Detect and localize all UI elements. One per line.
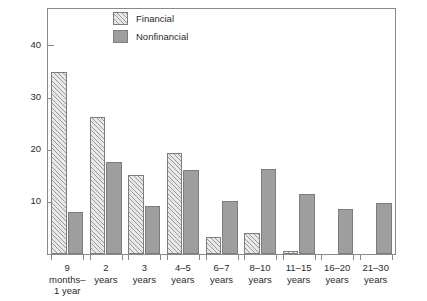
- x-tick-6-1: [315, 255, 316, 260]
- legend-item-financial: Financial: [113, 11, 188, 25]
- y-tick-label-40: 40: [15, 39, 41, 50]
- bar-financial-2: [128, 175, 144, 254]
- x-tick-1-0: [90, 255, 91, 260]
- y-tick-label-30: 30: [15, 91, 41, 102]
- bar-financial-4: [206, 237, 222, 254]
- bar-nonfinancial-4: [222, 201, 238, 254]
- bar-financial-6: [283, 251, 299, 254]
- x-tick-7-1: [353, 255, 354, 260]
- x-tick-7-0: [321, 255, 322, 260]
- x-tick-2-1: [160, 255, 161, 260]
- bar-nonfinancial-5: [261, 169, 277, 254]
- legend-label-nonfinancial: Nonfinancial: [136, 31, 188, 42]
- x-tick-3-0: [167, 255, 168, 260]
- bar-financial-1: [90, 117, 106, 254]
- x-tick-0-1: [83, 255, 84, 260]
- x-tick-5-1: [276, 255, 277, 260]
- legend-item-nonfinancial: Nonfinancial: [113, 29, 188, 43]
- bar-chart-figure: Percent of total 10203040 9 months– 1 ye…: [0, 0, 427, 301]
- x-tick-8-1: [392, 255, 393, 260]
- x-tick-3-1: [199, 255, 200, 260]
- x-group-label-8: 21–30 years: [350, 262, 402, 285]
- bar-financial-5: [244, 233, 260, 254]
- x-tick-8-0: [360, 255, 361, 260]
- legend-label-financial: Financial: [136, 13, 174, 24]
- bar-nonfinancial-0: [68, 212, 84, 254]
- x-tick-1-1: [122, 255, 123, 260]
- bar-nonfinancial-1: [106, 162, 122, 254]
- bar-nonfinancial-6: [299, 194, 315, 254]
- bar-financial-0: [51, 72, 67, 254]
- x-tick-6-0: [283, 255, 284, 260]
- bar-nonfinancial-8: [376, 203, 392, 254]
- y-tick-label-20: 20: [15, 143, 41, 154]
- y-tick-label-10: 10: [15, 195, 41, 206]
- x-tick-4-0: [206, 255, 207, 260]
- x-tick-4-1: [238, 255, 239, 260]
- x-tick-5-0: [244, 255, 245, 260]
- bar-financial-3: [167, 153, 183, 254]
- x-tick-2-0: [128, 255, 129, 260]
- legend-swatch-nonfinancial-icon: [113, 30, 128, 43]
- bar-nonfinancial-2: [145, 206, 161, 254]
- x-tick-0-0: [51, 255, 52, 260]
- bar-nonfinancial-3: [183, 170, 199, 254]
- legend-swatch-financial-icon: [113, 12, 128, 25]
- bars-layer: [48, 9, 395, 254]
- chart-legend: Financial Nonfinancial: [113, 11, 188, 43]
- bar-nonfinancial-7: [338, 209, 354, 254]
